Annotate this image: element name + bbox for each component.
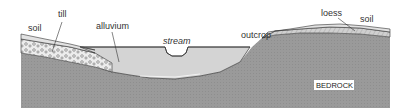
label-outcrop: outcrop <box>241 30 271 40</box>
label-soil-left: soil <box>28 23 42 33</box>
label-loess: loess <box>321 8 343 18</box>
label-alluvium: alluvium <box>96 21 129 31</box>
geologic-cross-section: soil till alluvium stream outcrop loess … <box>0 0 404 112</box>
label-bedrock: BEDROCK <box>316 81 353 90</box>
label-till: till <box>58 9 67 19</box>
label-soil-right: soil <box>360 14 374 24</box>
label-stream: stream <box>163 36 191 46</box>
